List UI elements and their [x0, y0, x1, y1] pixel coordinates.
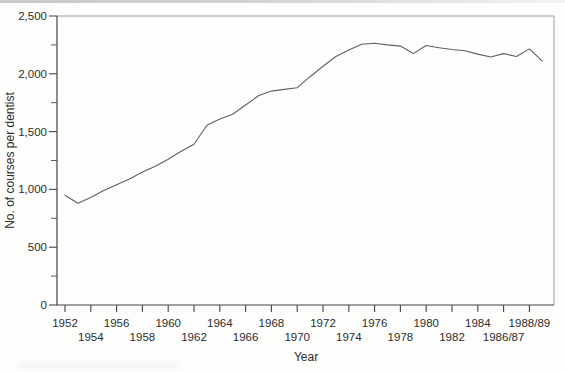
- x-tick-label: 1968: [259, 317, 285, 329]
- y-tick-label: 1,000: [18, 183, 47, 195]
- x-tick-label: 1978: [388, 331, 414, 343]
- x-tick-label: 1984: [465, 317, 491, 329]
- x-tick-label: 1980: [413, 317, 439, 329]
- y-tick-label: 0: [41, 299, 47, 311]
- data-series: [65, 43, 542, 203]
- x-tick-label: 1954: [78, 331, 104, 343]
- y-axis-title: No. of courses per dentist: [3, 91, 17, 228]
- x-tick-label: 1988/89: [509, 317, 551, 329]
- scanned-chart-page: 05001,0001,5002,0002,500 195219541956195…: [0, 0, 565, 372]
- y-tick-label: 1,500: [18, 126, 47, 138]
- y-tick-label: 500: [28, 241, 47, 253]
- plot-frame: [57, 16, 554, 305]
- data-line: [65, 43, 542, 203]
- x-tick-label: 1960: [155, 317, 181, 329]
- x-tick-label: 1972: [310, 317, 336, 329]
- x-axis: 1952195419561958196019621964196619681970…: [52, 305, 550, 343]
- axes: [57, 16, 554, 305]
- y-axis: 05001,0001,5002,0002,500: [18, 10, 57, 311]
- y-tick-label: 2,000: [18, 68, 47, 80]
- x-tick-label: 1982: [439, 331, 465, 343]
- x-tick-label: 1986/87: [483, 331, 525, 343]
- x-tick-label: 1970: [284, 331, 310, 343]
- x-axis-title: Year: [294, 350, 318, 364]
- x-tick-label: 1976: [362, 317, 388, 329]
- x-tick-label: 1952: [52, 317, 78, 329]
- x-tick-label: 1962: [181, 331, 207, 343]
- line-chart: 05001,0001,5002,0002,500 195219541956195…: [0, 0, 565, 372]
- x-tick-label: 1974: [336, 331, 362, 343]
- x-tick-label: 1964: [207, 317, 233, 329]
- x-tick-label: 1956: [104, 317, 130, 329]
- x-tick-label: 1966: [233, 331, 259, 343]
- y-tick-label: 2,500: [18, 10, 47, 22]
- scan-artifact-smudge: [18, 363, 178, 369]
- x-tick-label: 1958: [130, 331, 156, 343]
